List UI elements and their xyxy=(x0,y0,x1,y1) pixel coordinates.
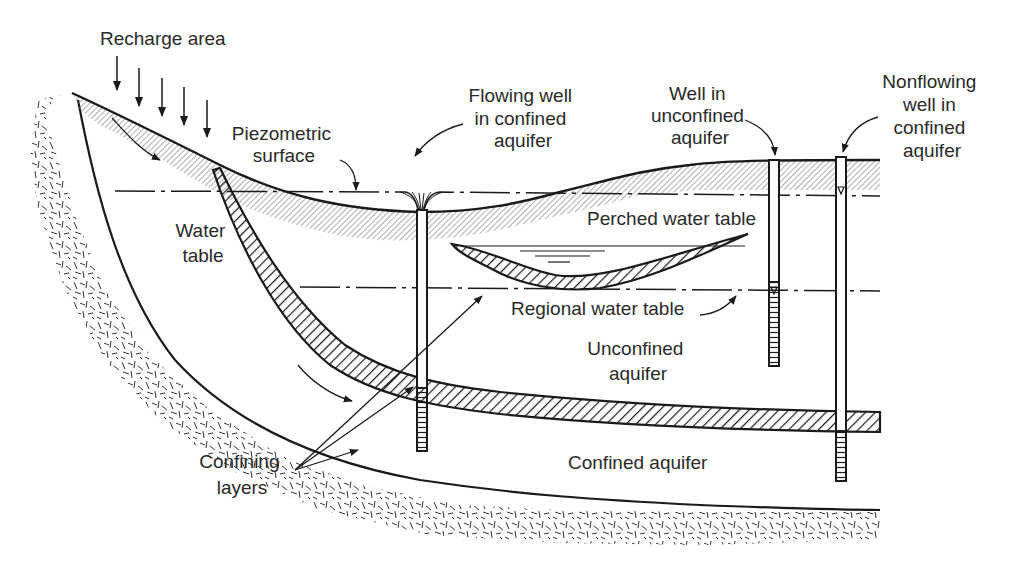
label-regional-water-table: Regional water table xyxy=(511,298,684,319)
flowing-well-spray xyxy=(400,192,443,210)
label-perched-water-table: Perched water table xyxy=(587,208,756,229)
perched-lens xyxy=(452,234,748,289)
unconfined-well xyxy=(769,160,779,366)
flowing-well xyxy=(417,210,427,451)
label-well-unconfined: Well in unconfined aquifer xyxy=(651,83,749,148)
label-nonflowing-well: Nonflowing well in confined aquifer xyxy=(882,71,981,161)
label-water-table: Water table xyxy=(175,220,230,266)
nonflowing-well xyxy=(836,157,846,481)
label-piezometric-surface: Piezometric surface xyxy=(232,123,337,166)
aquifer-cross-section-diagram: Recharge area Piezometric surface Water … xyxy=(0,0,1027,561)
label-confined-aquifer: Confined aquifer xyxy=(568,452,708,473)
label-recharge-area: Recharge area xyxy=(100,28,226,49)
label-flowing-well: Flowing well in confined aquifer xyxy=(469,85,578,151)
label-unconfined-aquifer: Unconfined aquifer xyxy=(587,338,688,384)
